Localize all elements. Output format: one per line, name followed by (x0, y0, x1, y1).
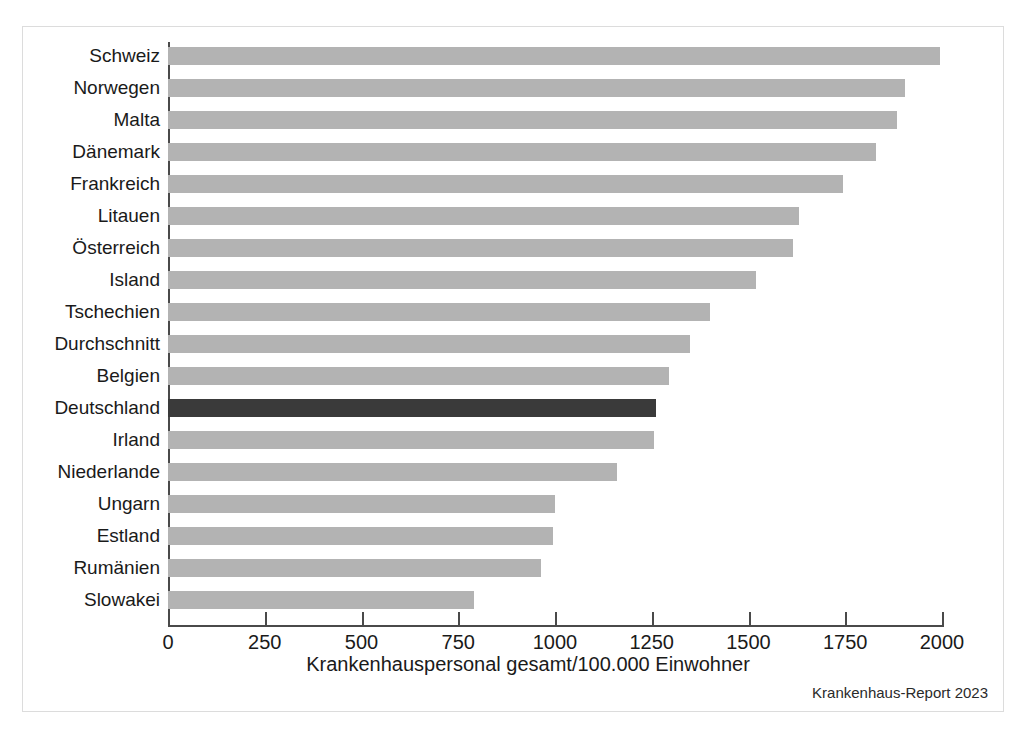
bar (168, 559, 541, 577)
bar (168, 239, 793, 257)
x-axis-title: Krankenhauspersonal gesamt/100.000 Einwo… (0, 653, 1026, 676)
category-label: Tschechien (65, 301, 160, 323)
x-tick-label: 250 (248, 631, 281, 654)
category-label: Österreich (72, 237, 160, 259)
category-label: Ungarn (98, 493, 160, 515)
bar-row (168, 40, 942, 72)
category-label: Estland (97, 525, 160, 547)
category-label: Belgien (97, 365, 160, 387)
bar (168, 143, 876, 161)
bar-row (168, 520, 942, 552)
bar-row (168, 392, 942, 424)
category-label: Norwegen (73, 77, 160, 99)
bar (168, 335, 690, 353)
bar (168, 591, 474, 609)
category-label: Deutschland (54, 397, 160, 419)
bar (168, 527, 553, 545)
bar-row (168, 264, 942, 296)
category-label: Schweiz (89, 45, 160, 67)
bar (168, 303, 710, 321)
category-label: Dänemark (72, 141, 160, 163)
x-tick-label: 500 (345, 631, 378, 654)
x-tick-label: 0 (162, 631, 173, 654)
x-tick-label: 1250 (630, 631, 675, 654)
category-label: Island (109, 269, 160, 291)
bar-row (168, 136, 942, 168)
x-tick-mark (265, 612, 267, 626)
bar-row (168, 232, 942, 264)
x-tick-label: 750 (442, 631, 475, 654)
bar (168, 367, 669, 385)
x-tick-mark (362, 612, 364, 626)
bar-row (168, 328, 942, 360)
category-label: Frankreich (70, 173, 160, 195)
source-note: Krankenhaus-Report 2023 (812, 684, 988, 701)
x-tick-label: 1000 (533, 631, 578, 654)
bar (168, 463, 617, 481)
category-label: Irland (112, 429, 160, 451)
bar-row (168, 424, 942, 456)
category-label: Litauen (98, 205, 160, 227)
bar-row (168, 200, 942, 232)
bar (168, 79, 905, 97)
bar-row (168, 488, 942, 520)
bar-row (168, 360, 942, 392)
bar-row (168, 552, 942, 584)
x-tick-mark (749, 612, 751, 626)
bar (168, 495, 555, 513)
x-tick-mark (652, 612, 654, 626)
bar-row (168, 168, 942, 200)
x-tick-mark (458, 612, 460, 626)
x-tick-mark (845, 612, 847, 626)
bar (168, 207, 799, 225)
plot-area (168, 40, 942, 622)
bar-row (168, 104, 942, 136)
x-tick-mark (168, 612, 170, 626)
x-tick-label: 1500 (726, 631, 771, 654)
category-label: Slowakei (84, 589, 160, 611)
bar-row (168, 296, 942, 328)
bar (168, 271, 756, 289)
bar-highlight (168, 399, 656, 417)
bar (168, 431, 654, 449)
x-tick-mark (555, 612, 557, 626)
bar (168, 111, 897, 129)
bar-row (168, 456, 942, 488)
x-tick-label: 1750 (823, 631, 868, 654)
category-label: Rumänien (73, 557, 160, 579)
category-label: Niederlande (58, 461, 160, 483)
x-tick-mark (942, 612, 944, 626)
bar (168, 175, 843, 193)
category-label: Malta (114, 109, 160, 131)
bar (168, 47, 940, 65)
category-label: Durchschnitt (54, 333, 160, 355)
bar-row (168, 72, 942, 104)
x-tick-label: 2000 (920, 631, 965, 654)
chart-figure: SchweizNorwegenMaltaDänemarkFrankreichLi… (0, 0, 1026, 744)
